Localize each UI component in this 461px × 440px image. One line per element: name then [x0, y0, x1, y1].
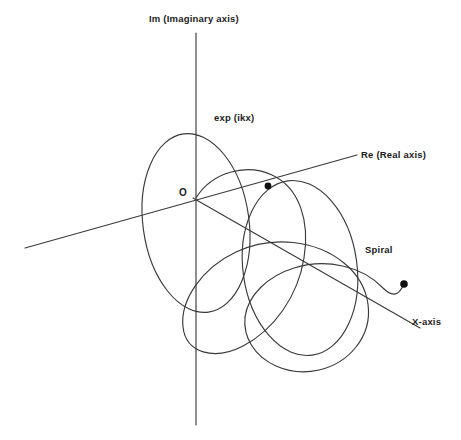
- exp-ikx-label: exp (ikx): [214, 113, 254, 123]
- spiral-tail-path: [245, 264, 404, 317]
- figure-canvas: [0, 0, 461, 440]
- spiral-front-circle: [231, 173, 368, 363]
- exp-point-dot: [265, 183, 272, 190]
- x-axis-line: [193, 198, 420, 328]
- x-axis-label: X-axis: [412, 317, 441, 327]
- spiral-endpoint-dot: [400, 280, 408, 288]
- origin-label: O: [179, 188, 187, 198]
- real-axis-label: Re (Real axis): [361, 150, 426, 160]
- spiral-label: Spiral: [365, 245, 393, 255]
- real-axis-line: [25, 155, 357, 248]
- figure-root: Im (Imaginary axis) Re (Real axis) X-axi…: [0, 0, 461, 440]
- imaginary-axis-label: Im (Imaginary axis): [149, 14, 239, 24]
